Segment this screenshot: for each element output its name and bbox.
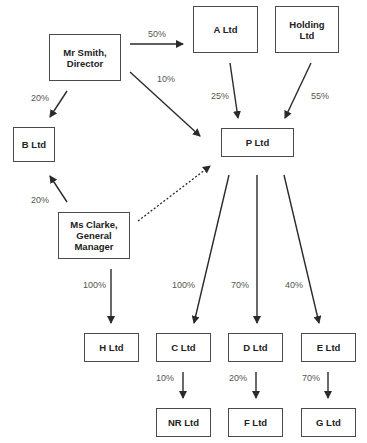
- node-label-line: E Ltd: [317, 342, 341, 353]
- edge-label-smith-b: 20%: [31, 93, 49, 103]
- node-g: G Ltd: [301, 408, 356, 437]
- edge-a-to-p: [230, 63, 238, 118]
- node-label-line: Holding: [289, 19, 324, 30]
- node-label-line: G Ltd: [316, 417, 341, 428]
- edge-label-smith-a: 50%: [148, 29, 166, 39]
- node-label-line: Ms Clarke,: [70, 219, 118, 230]
- edge-p-to-e: [284, 175, 319, 323]
- edge-p-to-c: [194, 175, 229, 323]
- edge-label-p-c: 100%: [172, 280, 195, 290]
- node-d: D Ltd: [228, 333, 283, 362]
- edge-label-e-g: 70%: [302, 373, 320, 383]
- edge-label-clarke-b: 20%: [31, 195, 49, 205]
- edge-label-clarke-h: 100%: [83, 280, 106, 290]
- node-p: P Ltd: [221, 128, 294, 157]
- edge-label-d-f: 20%: [229, 373, 247, 383]
- node-label-line: Director: [67, 58, 103, 69]
- edge-smith-to-b: [50, 91, 67, 117]
- node-label-line: P Ltd: [246, 137, 270, 148]
- edge-clarke-to-b: [50, 176, 67, 202]
- node-holding: HoldingLtd: [275, 6, 339, 53]
- node-b: B Ltd: [13, 127, 55, 162]
- node-label-line: NR Ltd: [168, 417, 199, 428]
- edge-holding-to-p: [285, 63, 311, 118]
- edge-label-p-e: 40%: [285, 280, 303, 290]
- node-clarke: Ms Clarke,GeneralManager: [58, 212, 130, 259]
- node-label-line: General: [76, 230, 111, 241]
- node-label-line: D Ltd: [243, 342, 267, 353]
- edge-label-a-p: 25%: [211, 91, 229, 101]
- edge-clarke-to-p: [138, 166, 210, 221]
- node-label-line: Manager: [74, 241, 113, 252]
- node-label-line: A Ltd: [214, 24, 238, 35]
- edge-label-holding-p: 55%: [311, 91, 329, 101]
- node-nr: NR Ltd: [156, 408, 211, 437]
- node-smith: Mr Smith,Director: [49, 34, 121, 81]
- node-label-line: Mr Smith,: [63, 47, 106, 58]
- edge-label-p-d: 70%: [231, 280, 249, 290]
- node-a: A Ltd: [193, 6, 258, 53]
- node-label-line: F Ltd: [244, 417, 267, 428]
- node-e: E Ltd: [301, 333, 356, 362]
- node-f: F Ltd: [228, 408, 283, 437]
- node-h: H Ltd: [84, 333, 139, 362]
- node-c: C Ltd: [156, 333, 211, 362]
- edge-label-c-nr: 10%: [156, 373, 174, 383]
- node-label-line: Ltd: [300, 30, 315, 41]
- edge-label-smith-p: 10%: [157, 74, 175, 84]
- node-label-line: H Ltd: [99, 342, 123, 353]
- node-label-line: C Ltd: [171, 342, 195, 353]
- node-label-line: B Ltd: [22, 139, 46, 150]
